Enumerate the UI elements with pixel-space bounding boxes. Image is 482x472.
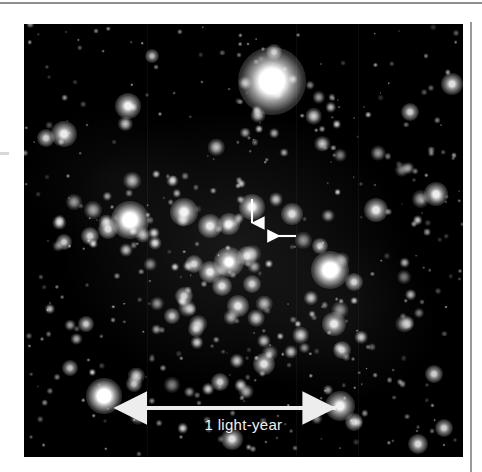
background-star xyxy=(327,330,332,335)
background-star xyxy=(68,244,72,248)
background-star xyxy=(360,216,363,219)
background-star xyxy=(145,376,147,378)
background-star xyxy=(202,26,204,28)
background-star xyxy=(110,205,114,209)
background-star xyxy=(365,367,368,370)
background-star xyxy=(324,389,326,391)
background-star xyxy=(207,155,209,157)
cluster-star xyxy=(179,300,196,317)
background-star xyxy=(150,354,155,359)
cluster-star xyxy=(238,76,251,89)
background-star xyxy=(365,344,370,349)
background-star xyxy=(373,63,377,67)
background-star xyxy=(27,24,34,28)
background-star xyxy=(154,65,159,70)
background-star xyxy=(387,377,393,383)
background-star xyxy=(384,253,390,259)
background-star xyxy=(424,383,428,387)
background-star xyxy=(179,357,182,360)
background-star xyxy=(220,50,225,55)
cluster-star xyxy=(265,260,273,268)
background-star xyxy=(412,178,416,182)
background-star xyxy=(58,140,64,146)
cluster-star xyxy=(261,345,277,361)
background-star xyxy=(373,373,378,378)
background-star xyxy=(404,299,408,303)
background-star xyxy=(264,308,270,314)
background-star xyxy=(457,199,461,203)
background-star xyxy=(41,399,48,406)
background-star xyxy=(160,365,166,371)
cluster-star xyxy=(334,188,341,195)
background-star xyxy=(385,209,391,215)
bright-star xyxy=(62,360,78,376)
bright-star xyxy=(441,73,463,95)
astronomy-photograph: 1 light-year xyxy=(24,24,463,457)
background-star xyxy=(388,82,390,84)
cluster-star xyxy=(255,125,263,133)
background-star xyxy=(437,237,443,243)
background-star xyxy=(49,302,52,305)
background-star xyxy=(265,79,270,84)
background-star xyxy=(168,199,174,205)
background-star xyxy=(97,383,100,386)
background-star xyxy=(46,332,52,338)
background-star xyxy=(243,400,246,403)
cluster-star xyxy=(269,128,279,138)
cluster-star xyxy=(351,297,359,305)
background-star xyxy=(264,161,267,164)
background-star xyxy=(398,30,400,32)
cluster-star xyxy=(208,139,225,156)
bright-star xyxy=(281,203,303,225)
cluster-star xyxy=(148,228,159,239)
background-star xyxy=(86,124,89,127)
cluster-star xyxy=(53,240,64,251)
cluster-star xyxy=(223,220,233,230)
background-star xyxy=(309,374,313,378)
cluster-star xyxy=(202,383,214,395)
background-star xyxy=(423,54,428,59)
background-star xyxy=(421,89,427,95)
cluster-star xyxy=(305,108,322,125)
background-star xyxy=(245,375,251,381)
cluster-star xyxy=(397,270,411,284)
cluster-star xyxy=(332,264,342,274)
bright-star xyxy=(185,255,203,273)
background-star xyxy=(230,272,236,278)
background-star xyxy=(147,217,154,224)
bright-star xyxy=(364,198,388,222)
background-star xyxy=(268,343,271,346)
cluster-star xyxy=(396,315,413,332)
background-star xyxy=(107,408,109,410)
background-star xyxy=(77,45,82,50)
background-star xyxy=(400,313,406,319)
background-star xyxy=(449,274,453,278)
background-star xyxy=(424,220,430,226)
cluster-star xyxy=(288,74,297,83)
cluster-star xyxy=(89,369,95,375)
background-star xyxy=(146,204,149,207)
cluster-star xyxy=(252,106,262,116)
bright-star xyxy=(333,341,351,359)
background-star xyxy=(102,50,105,53)
cluster-star xyxy=(431,190,444,203)
cluster-star xyxy=(210,187,217,194)
background-star xyxy=(374,32,377,35)
background-star xyxy=(162,196,165,199)
background-star xyxy=(196,400,201,405)
top-rule xyxy=(0,2,482,4)
background-star xyxy=(425,398,429,402)
bright-star xyxy=(198,214,222,238)
bright-star xyxy=(188,321,204,337)
cluster-star xyxy=(280,148,289,157)
background-star xyxy=(425,173,428,176)
background-star xyxy=(215,226,221,232)
background-star xyxy=(277,333,279,335)
cluster-star xyxy=(333,343,343,353)
background-star xyxy=(252,139,258,145)
background-star xyxy=(235,319,240,324)
cluster-star xyxy=(213,336,220,343)
background-star xyxy=(236,183,241,188)
background-star xyxy=(445,70,450,75)
background-star xyxy=(363,106,365,108)
